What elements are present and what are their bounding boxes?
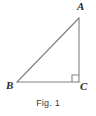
- figure-caption: Fig. 1: [0, 98, 96, 109]
- vertex-label-a: A: [77, 1, 84, 12]
- right-angle-marker-icon: [72, 75, 79, 82]
- vertex-label-b: B: [6, 80, 13, 91]
- figure-container: A B C Fig. 1: [0, 0, 96, 116]
- triangle-side-hypotenuse-AB: [17, 18, 79, 82]
- vertex-label-c: C: [80, 81, 87, 92]
